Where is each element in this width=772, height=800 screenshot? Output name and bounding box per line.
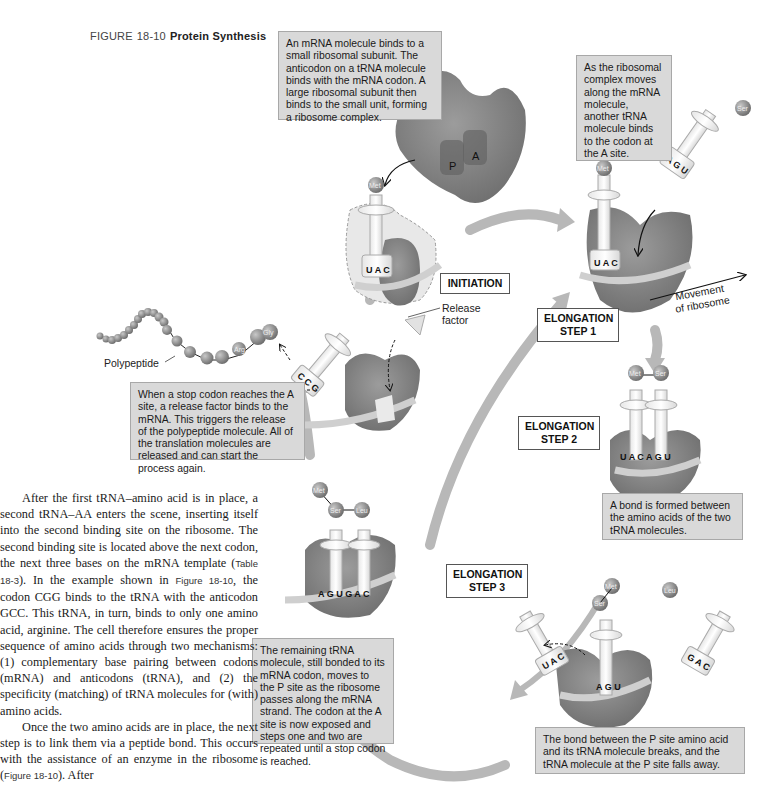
svg-text:U A C: U A C xyxy=(366,265,390,275)
stage-elongation-2: ELONGATION STEP 2 xyxy=(518,416,600,450)
elongation-3-complex: A G U G A C Met Ser Leu xyxy=(285,482,396,618)
aa-ser-elong2: Ser xyxy=(655,370,667,377)
p1-part-b: ). In the example shown in xyxy=(19,573,176,587)
polypeptide-label: Polypeptide xyxy=(104,357,159,369)
svg-text:U A C A G U: U A C A G U xyxy=(620,452,671,462)
stage-elongation-3-line2: STEP 3 xyxy=(453,581,521,594)
p-site-label: P xyxy=(449,160,456,172)
p1-part-a: After the first tRNA–amino acid is in pl… xyxy=(0,491,258,570)
stage-elongation-1: ELONGATION STEP 1 xyxy=(537,308,619,342)
stage-elongation-3-line1: ELONGATION xyxy=(453,568,521,581)
figure-reference-link-2[interactable]: Figure 18-10 xyxy=(4,770,58,781)
elongation-2-description: A bond is formed between the amino acids… xyxy=(602,493,743,540)
paragraph-2: Once the two amino acids are in place, t… xyxy=(0,719,258,785)
svg-text:A G U G A C: A G U G A C xyxy=(318,589,370,599)
stage-initiation: INITIATION xyxy=(440,273,510,294)
svg-text:U A C: U A C xyxy=(594,258,618,268)
aa-met-elong3: Met xyxy=(313,487,325,494)
aa-leu-break: Leu xyxy=(664,587,676,594)
bond-break-description: The bond between the P site amino acid a… xyxy=(535,727,745,774)
bond-break-complex: A G U Met Ser U A C G A C Leu xyxy=(511,578,739,728)
aa-leu-elong3: Leu xyxy=(356,507,368,514)
svg-text:A G U: A G U xyxy=(596,682,621,692)
p2-part-b: ). After xyxy=(58,768,94,782)
elongation-1-description: As the ribosomal complex moves along the… xyxy=(576,55,672,161)
p1-part-c: , the codon CGG binds to the tRNA with t… xyxy=(0,573,258,718)
aa-gly: Gly xyxy=(263,329,274,337)
stage-elongation-2-line1: ELONGATION xyxy=(525,420,593,433)
paragraph-1: After the first tRNA–amino acid is in pl… xyxy=(0,490,258,719)
termination-description: When a stop codon reaches the A site, a … xyxy=(130,382,305,460)
stage-elongation-2-line2: STEP 2 xyxy=(525,433,593,446)
stage-initiation-text: INITIATION xyxy=(448,277,503,289)
stage-elongation-3: ELONGATION STEP 3 xyxy=(446,564,528,598)
body-text: After the first tRNA–amino acid is in pl… xyxy=(0,490,258,785)
figure-reference-link[interactable]: Figure 18-10 xyxy=(176,575,234,586)
aa-ser-break: Ser xyxy=(594,600,606,607)
aa-arg: Arg xyxy=(234,346,245,354)
initiation-description: An mRNA molecule binds to a small riboso… xyxy=(278,31,442,120)
release-factor-label-2: factor xyxy=(442,314,468,326)
elongation-3-description: The remaining tRNA molecule, still bonde… xyxy=(252,638,394,744)
aa-met-elong1: Met xyxy=(597,165,609,172)
stage-elongation-1-line2: STEP 1 xyxy=(544,325,612,338)
elongation-2-complex: U A C A G U Met Ser xyxy=(610,365,701,503)
release-factor-label-1: Release xyxy=(442,302,481,314)
aa-met-elong2: Met xyxy=(629,370,641,377)
aa-ser-elong1: Ser xyxy=(737,105,749,112)
initiation-complex: U A C Met xyxy=(346,177,440,306)
aa-met-break: Met xyxy=(605,583,617,590)
stage-elongation-1-line1: ELONGATION xyxy=(544,312,612,325)
aa-met-initiation: Met xyxy=(369,182,381,189)
aa-ser-elong3: Ser xyxy=(330,507,342,514)
arrow-initiation-to-elong1 xyxy=(470,214,560,230)
a-site-label: A xyxy=(472,150,480,162)
arrow-elong1-to-elong2 xyxy=(655,330,658,360)
